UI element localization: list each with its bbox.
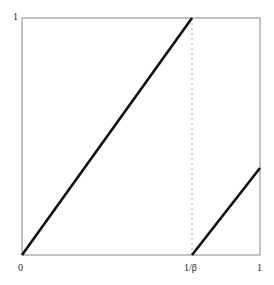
series-branch-2 bbox=[192, 168, 260, 255]
y-tick-1: 1 bbox=[13, 11, 18, 22]
x-tick-one-over-beta: 1/β bbox=[184, 262, 197, 273]
series-branch-1 bbox=[22, 18, 192, 255]
plot-frame bbox=[22, 18, 260, 255]
x-tick-1: 1 bbox=[257, 262, 262, 273]
x-tick-0: 0 bbox=[18, 262, 23, 273]
beta-transformation-plot bbox=[0, 0, 274, 285]
